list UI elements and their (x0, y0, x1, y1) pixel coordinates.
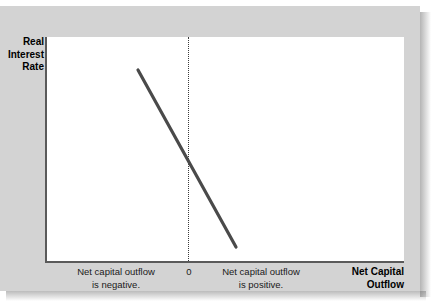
net-capital-outflow-curve (0, 6, 420, 291)
panel-shadow-bottom (6, 291, 426, 301)
caption-positive-line-1: Net capital outflow (198, 266, 324, 279)
y-axis-label-line-1: Real (0, 36, 44, 49)
y-axis-label-line-2: Interest (0, 49, 44, 62)
caption-negative-line-2: is negative. (53, 279, 179, 292)
figure-panel: Real Interest Rate Net Capital Outflow N… (0, 6, 420, 291)
caption-negative-region: Net capital outflow is negative. (53, 266, 179, 291)
x-axis-title-line-1: Net Capital (324, 266, 404, 279)
y-axis-label-line-3: Rate (0, 61, 44, 74)
x-axis-title-line-2: Outflow (324, 279, 404, 292)
panel-shadow-right (420, 12, 431, 297)
y-axis-label: Real Interest Rate (0, 36, 44, 74)
caption-positive-region: Net capital outflow is positive. (198, 266, 324, 291)
caption-negative-line-1: Net capital outflow (53, 266, 179, 279)
caption-positive-line-2: is positive. (198, 279, 324, 292)
x-axis-title: Net Capital Outflow (324, 266, 404, 291)
curve-line (138, 70, 236, 247)
origin-tick-label: 0 (179, 266, 199, 279)
